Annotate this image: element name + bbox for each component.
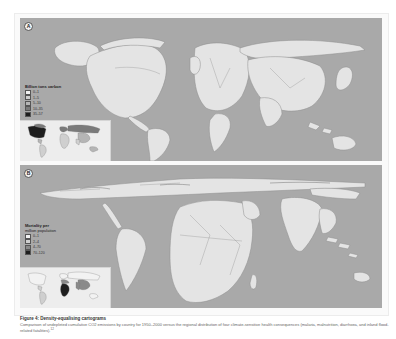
legend-swatch xyxy=(25,112,31,117)
legend-item: 35–57 xyxy=(25,112,61,117)
legend-swatch xyxy=(25,106,31,111)
legend-mortality: Mortality per million population 0–1 2–4… xyxy=(25,223,56,255)
legend-item: 0–1 xyxy=(25,234,56,239)
inset-map xyxy=(20,121,110,161)
legend-swatch xyxy=(25,95,31,100)
legend-item: 2–4 xyxy=(25,239,56,244)
legend-item: 4–70 xyxy=(25,245,56,250)
inset-map xyxy=(20,268,110,308)
legend-item: 0–1 xyxy=(25,90,61,95)
legend-label: 70–120 xyxy=(33,251,45,255)
legend-label: 5–10 xyxy=(33,101,41,105)
legend-item: 10–35 xyxy=(25,106,61,111)
legend-item: 1–5 xyxy=(25,95,61,100)
legend-item: 70–120 xyxy=(25,250,56,255)
legend-swatch xyxy=(25,234,31,239)
figure-caption-text: Comparison of undepleted cumulative CO2 … xyxy=(20,322,390,333)
legend-swatch xyxy=(25,239,31,244)
legend-item: 5–10 xyxy=(25,101,61,106)
panel-a-co2-cartogram: A Billion tons carbon 0–1 1–5 5–10 10–35… xyxy=(20,18,382,161)
legend-label: 0–1 xyxy=(33,234,39,238)
legend-label: 4–70 xyxy=(33,245,41,249)
inset-world-map-mortality xyxy=(20,267,111,308)
legend-swatch xyxy=(25,90,31,95)
legend-label: 0–1 xyxy=(33,90,39,94)
legend-label: 10–35 xyxy=(33,107,43,111)
legend-co2: Billion tons carbon 0–1 1–5 5–10 10–35 3… xyxy=(25,84,61,117)
caption-body: Comparison of undepleted cumulative CO2 … xyxy=(20,322,389,333)
panel-label-a: A xyxy=(24,22,33,31)
legend-label: 35–57 xyxy=(33,112,43,116)
caption-reference: 12 xyxy=(50,327,53,331)
legend-swatch xyxy=(25,250,31,255)
legend-label: 1–5 xyxy=(33,96,39,100)
inset-world-map-co2 xyxy=(20,120,111,161)
legend-label: 2–4 xyxy=(33,240,39,244)
legend-title: Billion tons carbon xyxy=(25,84,61,89)
legend-title-line2: million population xyxy=(25,228,56,233)
figure-caption: Figure 4: Density-equalising cartograms … xyxy=(20,316,390,333)
legend-swatch xyxy=(25,245,31,250)
panel-b-mortality-cartogram: B Mortality per million population 0–1 2… xyxy=(20,165,382,308)
legend-swatch xyxy=(25,101,31,106)
panel-label-b: B xyxy=(24,169,33,178)
